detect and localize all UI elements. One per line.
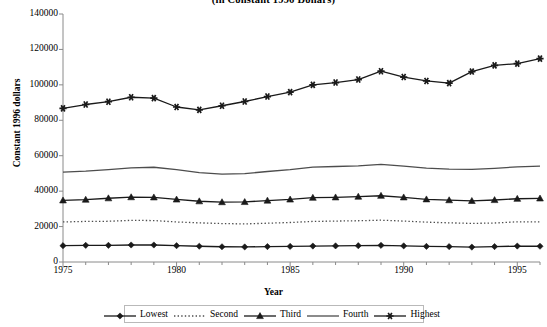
data-point	[423, 243, 429, 249]
chart-container: (in Constant 1996 Dollars) Constant 1996…	[0, 0, 547, 327]
data-point	[355, 76, 362, 82]
data-point	[446, 243, 452, 249]
legend-item-third[interactable]: Third	[243, 306, 306, 322]
data-point	[310, 243, 316, 249]
series-line	[63, 245, 540, 247]
data-point	[218, 103, 225, 109]
data-point	[491, 243, 497, 249]
data-point	[287, 243, 293, 249]
data-point	[173, 104, 180, 110]
legend-label: Second	[207, 309, 243, 319]
legend-label: Fourth	[340, 309, 373, 319]
data-point	[264, 243, 270, 249]
data-point	[150, 95, 157, 101]
series-third	[60, 192, 544, 204]
data-point	[196, 107, 203, 113]
axis-lines	[63, 14, 540, 262]
data-point	[332, 243, 338, 249]
series-lowest	[60, 242, 543, 250]
legend-key-none-icon	[306, 308, 340, 320]
legend-key-none-icon	[173, 308, 207, 320]
plot-area	[0, 0, 547, 327]
legend-item-fourth[interactable]: Fourth	[306, 306, 373, 322]
series-second	[63, 220, 540, 224]
data-point	[423, 78, 430, 84]
legend-label: Highest	[407, 309, 445, 319]
data-point	[82, 101, 89, 107]
data-point	[469, 244, 475, 250]
data-point	[446, 80, 453, 86]
data-point	[83, 242, 89, 248]
data-point	[173, 243, 179, 249]
data-point	[514, 243, 520, 249]
data-point	[287, 89, 294, 95]
data-point	[60, 243, 66, 249]
legend-key-diamond-icon	[103, 308, 137, 320]
legend-item-highest[interactable]: Highest	[373, 306, 445, 322]
data-point	[514, 60, 521, 66]
data-point	[537, 243, 543, 249]
data-point	[332, 79, 339, 85]
legend-item-second[interactable]: Second	[173, 306, 243, 322]
series-fourth	[63, 164, 540, 174]
data-point	[491, 62, 498, 68]
data-point	[241, 98, 248, 104]
data-point	[128, 94, 135, 100]
data-point	[219, 244, 225, 250]
data-point	[400, 74, 407, 80]
data-point	[401, 243, 407, 249]
series-highest	[59, 56, 543, 113]
legend-key-star-icon	[373, 308, 407, 320]
data-point	[128, 242, 134, 248]
data-point	[242, 244, 248, 250]
data-point	[309, 82, 316, 88]
data-point	[355, 243, 361, 249]
data-point	[105, 99, 112, 105]
series-line	[63, 220, 540, 224]
data-point	[151, 242, 157, 248]
series-line	[63, 59, 540, 110]
data-point	[105, 242, 111, 248]
data-point	[536, 56, 543, 62]
data-point	[377, 68, 384, 74]
data-point	[196, 243, 202, 249]
data-point	[378, 242, 384, 248]
series-line	[63, 196, 540, 202]
legend-item-lowest[interactable]: Lowest	[103, 306, 173, 322]
legend-label: Lowest	[137, 309, 173, 319]
series-line	[63, 164, 540, 174]
legend-key-triangle-icon	[243, 308, 277, 320]
data-point	[468, 68, 475, 74]
data-point	[264, 93, 271, 99]
chart-legend: LowestSecondThirdFourthHighest	[124, 305, 424, 323]
legend-label: Third	[277, 309, 306, 319]
